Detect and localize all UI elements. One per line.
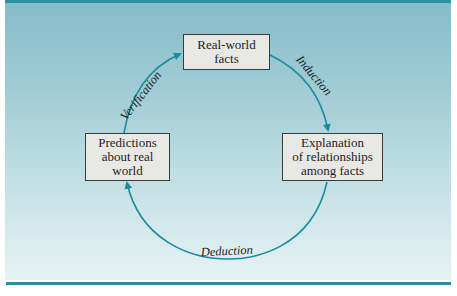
node-predictions-about-real-world: Predictions about real world [85, 133, 170, 181]
node-text-line: facts [197, 52, 255, 66]
node-text-line: Real-world [197, 38, 255, 52]
node-real-world-facts: Real-world facts [183, 34, 270, 70]
node-text-line: among facts [292, 164, 373, 178]
node-text-line: world [98, 164, 157, 178]
scientific-method-cycle-figure: Verification Induction Deduction Real-wo… [0, 0, 457, 296]
deduction-label: Deduction [199, 243, 253, 260]
node-text-line: of relationships [292, 150, 373, 164]
node-text-line: about real [98, 150, 157, 164]
node-explanation-of-relationships: Explanation of relationships among facts [282, 133, 383, 181]
verification-label: Verification [117, 68, 164, 123]
node-text-line: Predictions [98, 136, 157, 150]
node-text-line: Explanation [292, 136, 373, 150]
